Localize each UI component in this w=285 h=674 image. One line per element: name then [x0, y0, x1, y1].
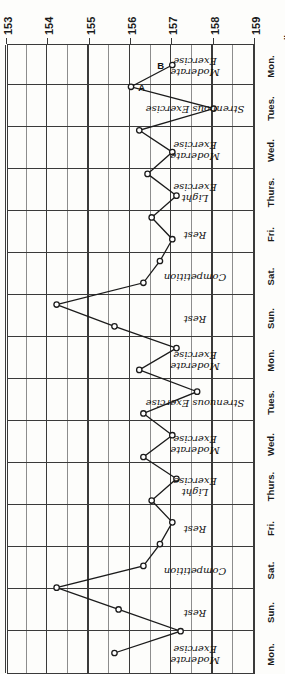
- axis-tick: [130, 38, 131, 44]
- axis-tick-label: 159: [250, 17, 262, 35]
- data-point: [112, 324, 117, 329]
- day-label: Tues.: [265, 94, 276, 124]
- day-label: Sun.: [265, 598, 276, 628]
- activity-annotation: Moderate Exercise: [139, 56, 251, 77]
- data-point: [112, 650, 117, 655]
- day-label: Sat.: [265, 262, 276, 292]
- activity-annotation: Strenuous Exercise: [139, 398, 251, 409]
- axis-tick-label: 156: [126, 17, 138, 35]
- data-point: [141, 454, 146, 459]
- data-point: [54, 302, 59, 307]
- data-point: [116, 607, 121, 612]
- day-label: Mon.: [265, 346, 276, 376]
- day-label: Wed.: [265, 136, 276, 166]
- day-label: Mon.: [265, 52, 276, 82]
- point-callout-a: A: [138, 82, 145, 93]
- data-point: [128, 84, 133, 89]
- day-label: Fri.: [265, 220, 276, 250]
- activity-annotation: Rest: [139, 230, 251, 241]
- axis-tick: [171, 38, 172, 44]
- gridline-major: [5, 45, 6, 673]
- day-label: Sun.: [265, 304, 276, 334]
- activity-annotation: Moderate Exercise: [139, 350, 251, 371]
- axis-tick-label: 158: [209, 17, 221, 35]
- data-point: [54, 585, 59, 590]
- day-label: Wed.: [265, 430, 276, 460]
- weight-axis: 159158157156155154153: [7, 0, 255, 44]
- data-point: [141, 411, 146, 416]
- day-label: Mon.: [265, 640, 276, 670]
- activity-annotation: Light Exercise: [139, 476, 251, 497]
- activity-annotation: Light Exercise: [139, 182, 251, 203]
- activity-annotation: Moderate Exercise: [139, 434, 251, 455]
- data-point: [149, 215, 154, 220]
- activity-annotation: Strenuous Exercise: [139, 104, 251, 115]
- day-label: Thurs.: [265, 472, 276, 502]
- axis-unit-label: lbs.: [283, 24, 285, 40]
- activity-annotation: Rest: [139, 524, 251, 535]
- data-point: [178, 629, 183, 634]
- axis-tick: [89, 38, 90, 44]
- day-label: Sat.: [265, 556, 276, 586]
- data-point: [149, 498, 154, 503]
- data-point: [137, 128, 142, 133]
- activity-annotation: Moderate Exercise: [139, 140, 251, 161]
- axis-tick-label: 154: [43, 17, 55, 35]
- activity-annotation: Rest: [139, 608, 251, 619]
- day-label: Fri.: [265, 514, 276, 544]
- data-point: [145, 171, 150, 176]
- data-point: [157, 541, 162, 546]
- axis-tick: [213, 38, 214, 44]
- rotated-figure: Mon.Tues.Wed.Thurs.Fri.Sat.Sun.Mon.Tues.…: [0, 0, 285, 674]
- axis-tick-label: 157: [167, 17, 179, 35]
- day-axis: Mon.Tues.Wed.Thurs.Fri.Sat.Sun.Mon.Tues.…: [255, 44, 285, 674]
- axis-tick-label: 155: [85, 17, 97, 35]
- axis-tick: [47, 38, 48, 44]
- data-point: [194, 389, 199, 394]
- day-label: Tues.: [265, 388, 276, 418]
- data-point: [157, 258, 162, 263]
- activity-annotation: Competition: [139, 272, 251, 283]
- activity-annotation: Rest: [139, 314, 251, 325]
- axis-tick-label: 153: [2, 17, 14, 35]
- activity-annotation: Competition: [139, 566, 251, 577]
- day-label: Thurs.: [265, 178, 276, 208]
- axis-tick: [6, 38, 7, 44]
- chart-sheet: Mon.Tues.Wed.Thurs.Fri.Sat.Sun.Mon.Tues.…: [0, 0, 285, 674]
- activity-annotation: Moderate Exercise: [139, 644, 251, 665]
- axis-tick: [254, 38, 255, 44]
